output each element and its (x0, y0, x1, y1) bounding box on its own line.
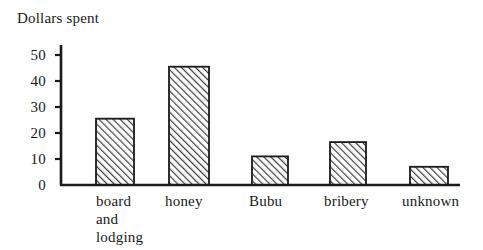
bars-group (96, 67, 448, 185)
bar (410, 167, 448, 185)
bar (252, 156, 288, 185)
bar (169, 67, 209, 185)
bar-chart-figure: Dollars spent 50 40 30 20 10 0 board and… (0, 0, 483, 250)
bar (96, 119, 134, 185)
bar (330, 142, 366, 185)
plot-area (0, 0, 483, 250)
